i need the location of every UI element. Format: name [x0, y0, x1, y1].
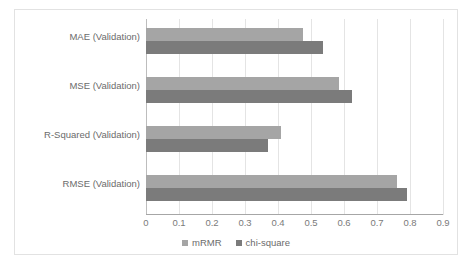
chart-container: MAE (Validation)MSE (Validation)R-Square…	[14, 9, 458, 255]
bar-mrmr[interactable]	[146, 28, 303, 41]
x-tick-label: 0.5	[304, 217, 317, 228]
bar-group: R-Squared (Validation)	[146, 117, 443, 166]
bar-chi-square[interactable]	[146, 188, 407, 201]
bar-mrmr[interactable]	[146, 175, 397, 188]
legend-label: chi-square	[246, 237, 290, 248]
bar-chi-square[interactable]	[146, 90, 352, 103]
legend-label: mRMR	[192, 237, 222, 248]
x-tick-label: 0.1	[172, 217, 185, 228]
x-tick-label: 0.8	[403, 217, 416, 228]
bar-mrmr[interactable]	[146, 77, 339, 90]
x-tick-label: 0.2	[205, 217, 218, 228]
category-label: R-Squared (Validation)	[20, 129, 146, 140]
bar-group: MAE (Validation)	[146, 19, 443, 68]
legend-item-chi-square[interactable]: chi-square	[236, 237, 290, 248]
legend-swatch-icon	[236, 240, 242, 246]
legend-swatch-icon	[182, 240, 188, 246]
bar-group: RMSE (Validation)	[146, 166, 443, 215]
x-tick-label: 0.4	[271, 217, 284, 228]
x-tick-label: 0.6	[337, 217, 350, 228]
bar-chi-square[interactable]	[146, 41, 323, 54]
plot-area: MAE (Validation)MSE (Validation)R-Square…	[146, 19, 443, 215]
category-label: MAE (Validation)	[20, 31, 146, 42]
bar-group: MSE (Validation)	[146, 68, 443, 117]
category-label: MSE (Validation)	[20, 80, 146, 91]
x-tick-label: 0.3	[238, 217, 251, 228]
chart-legend: mRMRchi-square	[15, 237, 457, 248]
bar-chi-square[interactable]	[146, 139, 268, 152]
bar-mrmr[interactable]	[146, 126, 281, 139]
x-tick-label: 0	[143, 217, 148, 228]
legend-item-mrmr[interactable]: mRMR	[182, 237, 222, 248]
x-tick-label: 0.9	[436, 217, 449, 228]
x-axis-tick-labels: 00.10.20.30.40.50.60.70.80.9	[146, 217, 443, 233]
x-tick-label: 0.7	[370, 217, 383, 228]
category-label: RMSE (Validation)	[20, 178, 146, 189]
gridline	[443, 19, 444, 215]
